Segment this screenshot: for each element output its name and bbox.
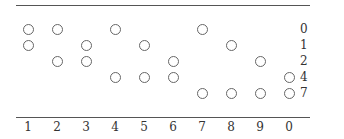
- top-rule: [16, 5, 310, 6]
- circle-mark: [23, 24, 34, 35]
- circle-mark: [197, 24, 208, 35]
- column-label: 8: [224, 121, 238, 133]
- column-label: 7: [195, 121, 209, 133]
- circle-mark: [226, 40, 237, 51]
- circle-mark: [284, 72, 295, 83]
- circle-mark: [52, 56, 63, 67]
- column-label: 4: [108, 121, 122, 133]
- circle-mark: [255, 56, 266, 67]
- circle-mark: [52, 24, 63, 35]
- circle-mark: [197, 88, 208, 99]
- bottom-rule: [16, 117, 310, 118]
- circle-mark: [226, 88, 237, 99]
- row-label: 2: [300, 55, 308, 67]
- circle-mark: [110, 72, 121, 83]
- circle-mark: [81, 56, 92, 67]
- column-label: 1: [21, 121, 35, 133]
- circle-mark: [110, 24, 121, 35]
- circle-mark: [23, 40, 34, 51]
- circle-mark: [81, 40, 92, 51]
- row-label: 0: [300, 23, 308, 35]
- column-label: 0: [282, 121, 296, 133]
- circle-mark: [255, 88, 266, 99]
- column-label: 9: [253, 121, 267, 133]
- column-label: 2: [50, 121, 64, 133]
- column-label: 6: [166, 121, 180, 133]
- circle-mark: [168, 56, 179, 67]
- circle-mark: [139, 40, 150, 51]
- row-label: 7: [300, 87, 308, 99]
- column-label: 5: [137, 121, 151, 133]
- circle-mark: [168, 72, 179, 83]
- circle-mark: [139, 72, 150, 83]
- row-label: 4: [300, 71, 308, 83]
- row-label: 1: [300, 39, 308, 51]
- circle-mark: [284, 88, 295, 99]
- column-label: 3: [79, 121, 93, 133]
